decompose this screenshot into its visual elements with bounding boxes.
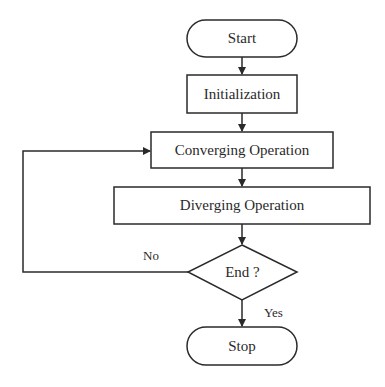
start-label: Start [228,30,256,47]
diverging-node: Diverging Operation [114,187,370,224]
converging-label: Converging Operation [175,142,309,159]
end-decision-label: End ? [225,264,260,281]
end-decision-node: End ? [188,245,297,300]
no-edge-label: No [143,248,159,264]
init-node: Initialization [187,75,297,113]
yes-edge-label: Yes [264,305,283,321]
start-node: Start [187,20,297,57]
stop-node: Stop [187,327,297,365]
diverging-label: Diverging Operation [180,197,304,214]
stop-label: Stop [228,338,256,355]
converging-node: Converging Operation [151,132,333,168]
init-label: Initialization [204,86,281,103]
